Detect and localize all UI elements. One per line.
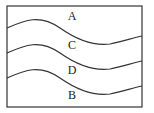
region-label-b: B	[68, 89, 76, 101]
region-label-d: D	[68, 64, 77, 76]
region-label-a: A	[68, 10, 77, 22]
diagram-canvas	[0, 0, 154, 113]
region-label-c: C	[68, 39, 76, 51]
